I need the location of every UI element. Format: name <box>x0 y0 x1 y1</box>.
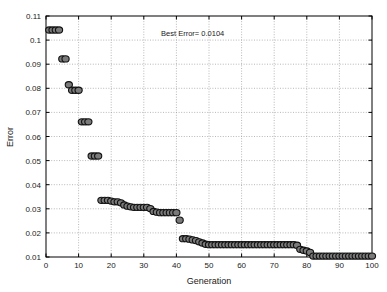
best-error-annotation: Best Error= 0.0104 <box>161 29 224 38</box>
x-tick-label: 100 <box>365 261 379 270</box>
x-tick-label: 40 <box>172 261 181 270</box>
chart-annotations: Best Error= 0.0104 <box>161 29 224 38</box>
grid-lines <box>46 16 372 257</box>
y-tick-label: 0.01 <box>25 253 41 262</box>
y-tick-label: 0.04 <box>25 181 41 190</box>
data-point <box>85 119 92 125</box>
y-tick-label: 0.02 <box>25 229 41 238</box>
scatter-plot: 0102030405060708090100 0.010.020.030.040… <box>0 0 387 292</box>
y-tick-label: 0.07 <box>25 108 41 117</box>
x-tick-label: 70 <box>270 261 279 270</box>
y-tick-label: 0.11 <box>26 12 42 21</box>
x-tick-label: 10 <box>74 261 83 270</box>
x-tick-label: 60 <box>237 261 246 270</box>
data-point <box>368 253 375 259</box>
y-axis-title: Error <box>5 127 15 147</box>
data-point <box>95 153 102 159</box>
y-tick-label: 0.1 <box>30 36 42 45</box>
x-tick-label: 30 <box>139 261 148 270</box>
y-tick-label: 0.06 <box>25 133 41 142</box>
x-tick-label: 90 <box>335 261 344 270</box>
x-tick-label: 80 <box>302 261 311 270</box>
y-tick-label: 0.05 <box>25 157 41 166</box>
data-point <box>176 217 183 223</box>
x-tick-label: 50 <box>205 261 214 270</box>
y-tick-labels: 0.010.020.030.040.050.060.070.080.090.10… <box>25 12 41 262</box>
y-tick-label: 0.03 <box>25 205 41 214</box>
data-point <box>55 27 62 33</box>
data-point <box>75 87 82 93</box>
y-tick-label: 0.08 <box>25 84 41 93</box>
data-points <box>46 27 376 259</box>
x-tick-label: 0 <box>44 261 49 270</box>
data-point <box>62 56 69 62</box>
y-tick-label: 0.09 <box>25 60 41 69</box>
x-axis-title: Generation <box>187 276 232 286</box>
x-tick-labels: 0102030405060708090100 <box>44 261 379 270</box>
data-point <box>173 210 180 216</box>
chart-figure: 0102030405060708090100 0.010.020.030.040… <box>0 0 387 292</box>
x-tick-label: 20 <box>107 261 116 270</box>
